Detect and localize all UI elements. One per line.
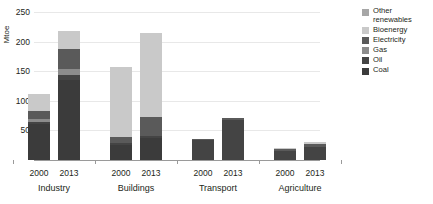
x-axis-year-label: 2000 [186, 168, 220, 178]
bar-segment-bioenergy [140, 33, 162, 117]
y-axis-tick-label: 250 [16, 8, 30, 16]
bar-segment-electricity [58, 49, 80, 70]
bar-industry-2000 [28, 94, 50, 160]
bar-segment-oil [274, 151, 296, 160]
bar-segment-oil [192, 140, 214, 160]
bar-agriculture-2000 [274, 148, 296, 160]
x-axis-group-label: Buildings [92, 183, 180, 193]
x-axis-year-label: 2000 [22, 168, 56, 178]
gridline [34, 12, 320, 13]
plot-area: 50100150200250 [34, 12, 320, 160]
bar-buildings-2000 [110, 67, 132, 161]
legend-label: Coal [373, 66, 389, 75]
legend-item[interactable]: Bioenergy [362, 26, 432, 35]
x-axis-year-label: 2013 [298, 168, 332, 178]
x-axis-tick [341, 160, 342, 164]
bar-segment-electricity [28, 111, 50, 119]
legend-label: Other renewables [373, 7, 432, 24]
bar-industry-2013 [58, 31, 80, 160]
bar-segment-bioenergy [110, 67, 132, 137]
x-axis-tick [177, 160, 178, 164]
legend-swatch-coal [362, 68, 369, 75]
bar-transport-2000 [192, 139, 214, 160]
y-axis-title-text: Mtoe [3, 25, 12, 43]
bar-segment-coal [110, 145, 132, 160]
x-axis-group-label: Industry [10, 183, 98, 193]
bar-segment-coal [58, 80, 80, 161]
bar-agriculture-2013 [304, 142, 326, 160]
legend: Other renewablesBioenergyElectricityGasO… [362, 7, 432, 76]
bar-segment-oil [222, 120, 244, 160]
x-axis-group-label: Agriculture [256, 183, 344, 193]
legend-label: Gas [373, 46, 387, 55]
legend-swatch-other-renewables [362, 9, 369, 16]
bar-segment-coal [28, 124, 50, 160]
legend-item[interactable]: Oil [362, 56, 432, 65]
x-axis-tick [95, 160, 96, 164]
bar-segment-electricity [140, 117, 162, 136]
x-axis-tick [13, 160, 14, 164]
legend-item[interactable]: Gas [362, 46, 432, 55]
legend-swatch-electricity [362, 37, 369, 44]
x-axis-year-label: 2000 [104, 168, 138, 178]
x-axis-tick [259, 160, 260, 164]
x-axis-year-label: 2013 [216, 168, 250, 178]
x-axis-year-label: 2000 [268, 168, 302, 178]
legend-item[interactable]: Other renewables [362, 7, 432, 24]
legend-label: Oil [373, 56, 382, 65]
y-axis-tick-label: 150 [16, 67, 30, 75]
legend-item[interactable]: Coal [362, 66, 432, 75]
legend-label: Electricity [373, 36, 406, 45]
bar-segment-bioenergy [58, 31, 80, 49]
bar-buildings-2013 [140, 33, 162, 160]
bar-segment-coal [140, 138, 162, 160]
legend-label: Bioenergy [373, 26, 407, 35]
bar-segment-oil [304, 147, 326, 160]
bar-transport-2013 [222, 118, 244, 160]
stacked-bar-chart: Mtoe 50100150200250 Other renewablesBioe… [0, 0, 433, 204]
legend-item[interactable]: Electricity [362, 36, 432, 45]
legend-swatch-bioenergy [362, 27, 369, 34]
x-axis-group-label: Transport [174, 183, 262, 193]
legend-swatch-gas [362, 47, 369, 54]
x-axis-year-label: 2013 [134, 168, 168, 178]
bar-segment-bioenergy [28, 94, 50, 111]
legend-swatch-oil [362, 57, 369, 64]
x-axis-year-label: 2013 [52, 168, 86, 178]
y-axis-title: Mtoe [0, 14, 14, 54]
y-axis-tick-label: 200 [16, 38, 30, 46]
